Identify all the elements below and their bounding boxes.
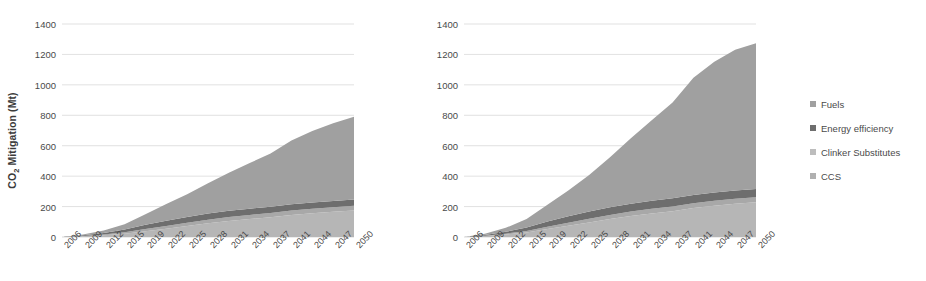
y-tick-label: 1400	[437, 19, 458, 30]
y-tick-label: 200	[442, 201, 458, 212]
y-tick-label: 200	[40, 201, 56, 212]
chart-panel-left: CO2 Mitigation (Mt) 02004006008001000120…	[0, 0, 418, 281]
legend-column: FuelsEnergy efficiencyClinker Substitute…	[808, 0, 926, 281]
plot-area-left	[62, 0, 354, 281]
legend: FuelsEnergy efficiencyClinker Substitute…	[810, 92, 900, 188]
legend-item[interactable]: CCS	[810, 164, 900, 188]
legend-swatch-icon	[810, 149, 816, 155]
y-tick-label: 1000	[35, 79, 56, 90]
y-tick-label: 1400	[35, 19, 56, 30]
chart-svg-left	[62, 0, 354, 281]
y-tick-label: 600	[40, 140, 56, 151]
y-tick-label: 800	[40, 110, 56, 121]
legend-item-label: Energy efficiency	[821, 123, 893, 134]
y-axis-label-left: CO2 Mitigation (Mt)	[4, 0, 22, 281]
y-tick-label: 1200	[35, 49, 56, 60]
legend-item-label: CCS	[821, 171, 841, 182]
y-axis-ticks-left: 0200400600800100012001400	[22, 0, 56, 281]
legend-item[interactable]: Fuels	[810, 92, 900, 116]
figure: CO2 Mitigation (Mt) 02004006008001000120…	[0, 0, 926, 281]
x-tick-label: 2050	[354, 229, 375, 250]
x-axis-ticks-left: 2006200920122015201920222025202820312034…	[0, 240, 418, 281]
legend-swatch-icon	[810, 101, 816, 107]
x-tick-label: 2050	[756, 229, 777, 250]
legend-item-label: Clinker Substitutes	[821, 147, 900, 158]
legend-swatch-icon	[810, 125, 816, 131]
y-tick-label: 1000	[437, 79, 458, 90]
y-tick-label: 1200	[437, 49, 458, 60]
legend-item[interactable]: Energy efficiency	[810, 116, 900, 140]
legend-item[interactable]: Clinker Substitutes	[810, 140, 900, 164]
plot-area-right	[464, 0, 756, 281]
y-tick-label: 400	[442, 171, 458, 182]
legend-item-label: Fuels	[821, 99, 844, 110]
x-axis-ticks-right: 2006200920122015201920222025202820312034…	[418, 240, 808, 281]
y-tick-label: 400	[40, 171, 56, 182]
y-axis-ticks-right: 0200400600800100012001400	[424, 0, 458, 281]
y-tick-label: 600	[442, 140, 458, 151]
legend-swatch-icon	[810, 173, 816, 179]
chart-svg-right	[464, 0, 756, 281]
y-tick-label: 800	[442, 110, 458, 121]
chart-panel-right: 0200400600800100012001400 20062009201220…	[418, 0, 808, 281]
